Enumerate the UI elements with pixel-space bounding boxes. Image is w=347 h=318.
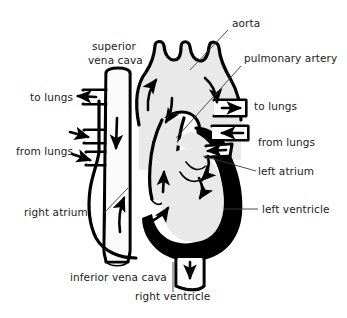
label-superior-vena-cava-line2: vena cava (88, 54, 143, 66)
label-from-lungs-right: from lungs (258, 136, 315, 148)
label-from-lungs-left: from lungs (16, 145, 73, 157)
label-aorta: aorta (232, 17, 260, 29)
label-left-ventricle: left ventricle (262, 203, 330, 215)
label-to-lungs-left: to lungs (30, 91, 73, 103)
heart-diagram-svg: aorta pulmonary artery superior vena cav… (0, 0, 347, 318)
label-to-lungs-right: to lungs (254, 100, 297, 112)
flow-arrow-to-lungs-left (78, 96, 96, 97)
label-right-atrium: right atrium (24, 206, 88, 218)
label-superior-vena-cava-line1: superior (92, 40, 137, 52)
vena-cava-lumen (106, 70, 129, 260)
label-left-atrium: left atrium (258, 165, 314, 177)
vena-cava-column (104, 68, 130, 266)
label-inferior-vena-cava: inferior vena cava (70, 271, 167, 283)
flow-arrow-svc-down (116, 118, 117, 148)
flow-arrow-rv-outflow (163, 172, 164, 192)
label-right-ventricle: right ventricle (135, 290, 210, 302)
label-pulmonary-artery: pulmonary artery (244, 52, 337, 64)
flow-arrow-left-atrium-in (208, 150, 226, 151)
heart-diagram: aorta pulmonary artery superior vena cav… (0, 0, 347, 318)
